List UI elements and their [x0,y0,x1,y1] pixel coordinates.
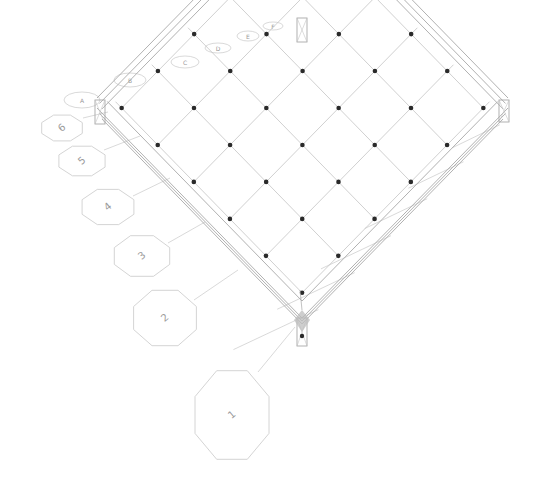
grid-line [188,28,375,219]
grid-line [122,0,309,108]
corner-node [300,334,304,338]
grid-bubble-label: D [216,45,221,52]
grid-line [194,0,381,182]
3d-view-canvas[interactable]: 123456ABCDEF Structural grid frame (3D v… [0,0,540,477]
grid-node [445,69,450,74]
grid-bubble-label: 2 [159,311,171,324]
grid-bubble-label: 1 [226,408,238,421]
grid-bubble-label: 3 [136,249,148,262]
frame-beam-line [97,108,302,318]
grid-node [264,180,269,185]
grid-node [156,69,161,74]
frame-beam-line [303,0,506,103]
grid-node [372,217,377,222]
bubble-leader [452,125,500,148]
grid-node [445,143,450,148]
grid-line [266,65,453,256]
bubble-leader [104,136,140,150]
grid-bubble-label: C [183,59,187,66]
grid-node [372,143,377,148]
bubble-leader [258,327,295,372]
grid-node [409,180,414,185]
selection-highlight [294,310,310,332]
frame-beam-line [102,119,302,324]
grid-line [224,0,411,182]
grid-node [300,143,305,148]
grid-node [264,106,269,111]
grid-node [228,69,233,74]
grid-line [302,102,489,293]
grid-node [192,106,197,111]
grid-line [230,28,417,219]
grid-node [481,106,486,111]
frame-beam-line [302,108,508,318]
grid-node [336,254,341,259]
frame-beam-line [302,113,506,320]
grid-node [264,254,269,259]
frame-beam-line [102,0,303,109]
grid-node [337,32,342,37]
grid-node [228,143,233,148]
grid-node [264,32,269,37]
grid-line [297,0,484,108]
frame-beam-line [303,0,508,98]
grid-nodes [119,0,485,295]
grid-node [192,32,197,37]
grid-node [409,32,414,37]
grid-node [336,180,341,185]
grid-node [373,69,378,74]
grid-node [300,217,305,222]
grid-bubble-label: 6 [56,121,68,134]
grid-bubble-label: 4 [102,200,114,213]
bubble-leader [194,270,238,300]
frame-beam-line [303,0,503,109]
bubble-leader [133,178,170,196]
grid-node [192,180,197,185]
grid-node [300,69,305,74]
frame-beam-line [107,102,302,302]
grid-node [409,106,414,111]
grid-bubble-label: 5 [76,154,88,167]
frame-beam-line [302,119,503,324]
grid-node [155,143,160,148]
grid-bubble-label: A [80,97,85,104]
grid-node [119,106,124,111]
bubble-leader [168,222,205,243]
frame-beam-line [302,102,498,302]
grid-node [228,217,233,222]
grid-bubble-label: E [246,33,250,40]
structural-frame-drawing: 123456ABCDEF [0,0,540,477]
grid-line [116,102,303,293]
frame-beam-line [99,0,303,103]
grid-node [336,106,341,111]
grid-line [152,65,339,256]
